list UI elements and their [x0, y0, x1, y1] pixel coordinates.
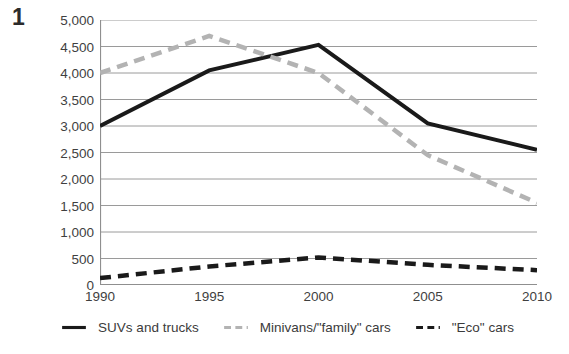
y-axis-tick-label: 1,000 — [36, 225, 94, 240]
x-axis-tick-label: 1990 — [85, 289, 115, 304]
legend-item-label: SUVs and trucks — [98, 320, 199, 335]
y-axis-tick-label: 5,000 — [36, 13, 94, 28]
line-chart-svg — [100, 20, 537, 285]
chart-legend: SUVs and trucksMinivans/"family" cars"Ec… — [0, 320, 569, 335]
series-line-1 — [100, 36, 537, 203]
legend-swatch-solid-line-icon — [55, 325, 93, 330]
y-axis-tick-label: 4,500 — [36, 39, 94, 54]
legend-item[interactable]: Minivans/"family" cars — [217, 320, 391, 335]
legend-swatch-dashed-line-icon — [217, 325, 255, 330]
figure-number-label: 1 — [12, 6, 25, 29]
y-axis-tick-label: 4,000 — [36, 66, 94, 81]
legend-item-label: "Eco" cars — [452, 320, 514, 335]
legend-item[interactable]: "Eco" cars — [409, 320, 514, 335]
y-axis-tick-label: 3,000 — [36, 119, 94, 134]
series-line-2 — [100, 257, 537, 278]
legend-item-label: Minivans/"family" cars — [260, 320, 391, 335]
y-axis-tick-label: 1,500 — [36, 198, 94, 213]
y-axis-tick-label: 3,500 — [36, 92, 94, 107]
x-axis-tick-label: 2005 — [413, 289, 443, 304]
y-axis-tick-labels: 05001,0001,5002,0002,5003,0003,5004,0004… — [36, 20, 94, 285]
y-axis-tick-label: 500 — [36, 251, 94, 266]
plot-area — [100, 20, 537, 285]
x-axis-tick-labels: 19901995200020052010 — [100, 289, 537, 311]
x-axis-tick-label: 2000 — [303, 289, 333, 304]
x-axis-tick-label: 1995 — [194, 289, 224, 304]
figure-container: 1 05001,0001,5002,0002,5003,0003,5004,00… — [0, 0, 569, 354]
legend-item[interactable]: SUVs and trucks — [55, 320, 199, 335]
series-line-0 — [100, 45, 537, 150]
y-axis-tick-label: 2,000 — [36, 172, 94, 187]
x-axis-tick-label: 2010 — [522, 289, 552, 304]
legend-swatch-dashed-line-icon — [409, 325, 447, 330]
y-axis-tick-label: 2,500 — [36, 145, 94, 160]
